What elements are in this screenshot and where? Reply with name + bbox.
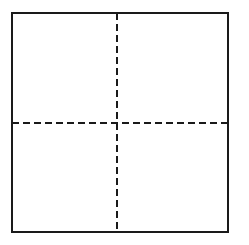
diagram-canvas: [0, 0, 249, 245]
outer-square: [12, 13, 228, 232]
quadrant-diagram: [0, 0, 249, 245]
